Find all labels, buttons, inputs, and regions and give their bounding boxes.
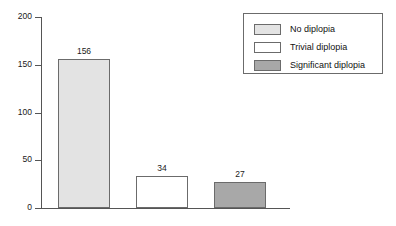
y-axis-tick-label: 0 (27, 203, 32, 212)
bar-value-label: 27 (214, 170, 266, 179)
legend-item-label: Trivial diplopia (290, 43, 347, 52)
x-axis-line (41, 208, 290, 209)
bar-chart: 050100150200 1563427 No diplopiaTrivial … (0, 0, 396, 226)
y-axis-tick-label: 150 (18, 60, 32, 69)
legend-item-label: Significant diplopia (290, 61, 365, 70)
y-axis-tick-label: 200 (18, 12, 32, 21)
bar (58, 59, 110, 208)
y-axis-tick (35, 160, 41, 161)
bar (214, 182, 266, 208)
legend-item[interactable]: Trivial diplopia (254, 41, 347, 54)
y-axis-tick (35, 65, 41, 66)
y-axis-tick (35, 208, 41, 209)
y-axis-tick-label-wrap: 0 (0, 203, 32, 213)
y-axis-tick-label-wrap: 50 (0, 155, 32, 165)
bar (136, 176, 188, 208)
legend-item-label: No diplopia (290, 25, 335, 34)
y-axis-tick-label: 100 (18, 108, 32, 117)
y-axis-tick-label-wrap: 200 (0, 12, 32, 22)
legend-item[interactable]: No diplopia (254, 23, 335, 36)
y-axis-tick-label: 50 (23, 155, 32, 164)
legend-item[interactable]: Significant diplopia (254, 59, 365, 72)
legend-swatch-icon (254, 60, 281, 71)
y-axis-line (41, 17, 42, 209)
y-axis-tick (35, 113, 41, 114)
legend-swatch-icon (254, 42, 281, 53)
bar-value-label: 34 (136, 164, 188, 173)
y-axis-tick-label-wrap: 150 (0, 60, 32, 70)
y-axis-tick-label-wrap: 100 (0, 108, 32, 118)
legend: No diplopiaTrivial diplopiaSignificant d… (243, 13, 383, 74)
legend-swatch-icon (254, 24, 281, 35)
y-axis-tick (35, 17, 41, 18)
bar-value-label: 156 (58, 47, 110, 56)
